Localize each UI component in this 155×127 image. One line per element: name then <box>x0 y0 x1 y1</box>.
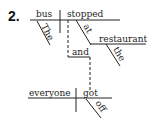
word-stopped: stopped <box>67 9 104 19</box>
word-got: got <box>83 88 98 98</box>
word-at: at <box>81 22 94 35</box>
word-bus: bus <box>36 9 53 19</box>
word-and: and <box>72 47 89 57</box>
word-the: the <box>111 45 127 63</box>
word-restaurant: restaurant <box>99 34 147 44</box>
word-The: The <box>39 22 56 42</box>
word-everyone: everyone <box>29 88 71 98</box>
sentence-diagram: bus stopped The at restaurant the and ev… <box>0 0 155 127</box>
